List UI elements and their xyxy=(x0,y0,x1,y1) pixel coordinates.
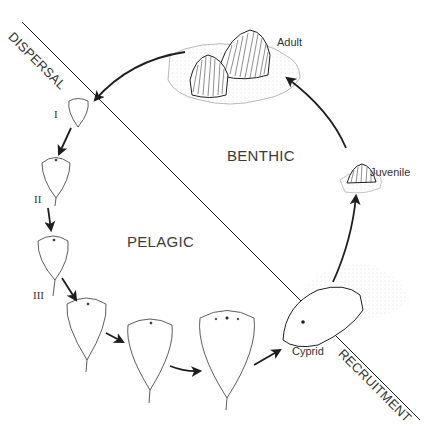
adult-label: Adult xyxy=(277,36,302,48)
cypris-larva-illustration xyxy=(283,264,410,346)
arrow-4-to-5 xyxy=(106,333,123,342)
arrow-5-to-6 xyxy=(170,366,200,371)
nauplius-stage-4 xyxy=(67,298,106,372)
arrow-6-to-cypris xyxy=(254,350,280,365)
pelagic-zone-label: PELAGIC xyxy=(127,233,194,250)
arrow-2-to-3 xyxy=(48,208,51,230)
nauplius-stage-2 xyxy=(42,158,70,207)
nauplius-label-ii: II xyxy=(34,193,41,205)
nauplius-stage-3 xyxy=(38,236,68,296)
nauplius-stage-1 xyxy=(69,99,89,128)
arrow-3-to-4 xyxy=(62,278,76,300)
nauplius-label-i: I xyxy=(54,108,58,120)
nauplius-label-iii: III xyxy=(33,289,44,301)
juvenile-label: Juvenile xyxy=(370,166,410,178)
nauplius-stage-5 xyxy=(128,319,173,403)
arrow-1-to-2 xyxy=(59,128,71,154)
benthic-zone-label: BENTHIC xyxy=(227,147,295,164)
cypris-label: Cyprid xyxy=(292,345,324,357)
arrow-juvenile-to-adult xyxy=(287,78,346,148)
nauplius-stage-6 xyxy=(200,311,255,411)
